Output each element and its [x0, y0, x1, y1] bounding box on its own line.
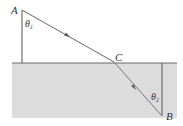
arrow-icon-incident	[64, 33, 70, 38]
label-a: A	[10, 4, 18, 16]
label-c: C	[115, 51, 123, 63]
label-b: B	[166, 110, 173, 122]
label-theta1: θ1	[25, 18, 33, 30]
refraction-diagram: A C B θ1 θ2	[0, 0, 183, 126]
